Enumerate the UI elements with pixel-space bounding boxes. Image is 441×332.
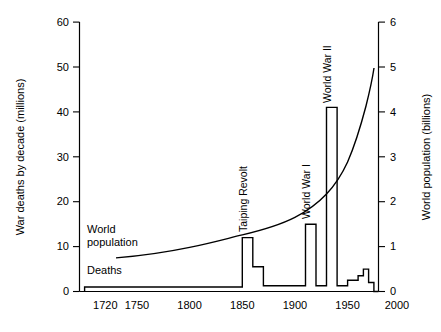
x-tick-label-1900: 1900	[283, 299, 307, 311]
label-deaths: Deaths	[87, 264, 122, 276]
left-tick-label-50: 50	[57, 61, 69, 73]
left-axis: 0 10 20 30 40 50 60 War deaths by decade…	[14, 16, 80, 297]
x-tick-label-1750: 1750	[125, 299, 149, 311]
x-tick-label-2000: 2000	[385, 299, 409, 311]
right-tick-label-0: 0	[390, 285, 396, 297]
x-axis: 1720 1750 1800 1850 1900 1950 2000	[80, 292, 410, 312]
x-tick-label-1800: 1800	[177, 299, 201, 311]
left-tick-label-20: 20	[57, 195, 69, 207]
annotations: Taiping Revolt World War I World War II	[237, 45, 333, 232]
annotation-world-war-ii: World War II	[321, 45, 333, 103]
right-tick-label-4: 4	[390, 106, 396, 118]
left-axis-title: War deaths by decade (millions)	[14, 79, 26, 236]
left-tick-label-0: 0	[63, 285, 69, 297]
left-tick-label-30: 30	[57, 151, 69, 163]
series-deaths	[85, 107, 379, 291]
right-tick-label-3: 3	[390, 151, 396, 163]
annotation-taiping-revolt: Taiping Revolt	[237, 166, 249, 232]
x-tick-label-1850: 1850	[230, 299, 254, 311]
right-tick-label-1: 1	[390, 240, 396, 252]
inline-series-labels: World population Deaths	[87, 223, 138, 276]
deaths-step-line	[85, 107, 379, 291]
left-tick-label-60: 60	[57, 16, 69, 28]
right-tick-label-2: 2	[390, 195, 396, 207]
left-tick-label-10: 10	[57, 240, 69, 252]
annotation-world-war-i: World War I	[300, 164, 312, 219]
label-world-population-line1: World	[87, 223, 116, 235]
right-tick-label-5: 5	[390, 61, 396, 73]
x-tick-label-1950: 1950	[335, 299, 359, 311]
chart-figure: 0 10 20 30 40 50 60 War deaths by decade…	[0, 0, 441, 332]
x-tick-label-1720: 1720	[93, 299, 117, 311]
right-axis: 0 1 2 3 4 5 6 World population (billions…	[379, 16, 433, 297]
right-axis-title: World population (billions)	[420, 94, 432, 220]
right-tick-label-6: 6	[390, 16, 396, 28]
chart-svg: 0 10 20 30 40 50 60 War deaths by decade…	[0, 0, 441, 332]
label-world-population-line2: population	[87, 236, 138, 248]
left-tick-label-40: 40	[57, 106, 69, 118]
